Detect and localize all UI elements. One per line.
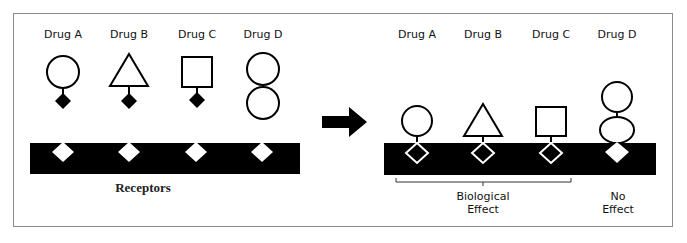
biological-effect-label-line1: Biological [456,190,509,203]
biological-effect-label-line2: Effect [467,203,499,216]
label-drug-c-after: Drug C [532,28,570,41]
label-drug-b-before: Drug B [110,28,148,41]
label-drug-d-after: Drug D [598,28,637,41]
drug-a-circle-icon [47,56,79,109]
label-drug-a-before: Drug A [44,28,82,41]
receptor-bar-before [30,142,300,174]
drug-c-square-icon [182,57,212,108]
drug-receptor-diagram: Drug A Drug B Drug C Drug D Receptors D [0,0,687,243]
no-effect-label-line2: Effect [602,203,634,216]
label-drug-d-before: Drug D [244,28,283,41]
drug-b-triangle-icon [110,54,148,109]
label-drug-a-after: Drug A [398,28,436,41]
drug-a-bound-icon [402,106,432,163]
no-effect-label-line1: No [611,190,626,203]
receptors-label: Receptors [115,180,171,195]
right-arrow-icon [322,107,367,137]
biological-effect-bracket [396,178,571,186]
drug-d-double-circle-icon [247,53,279,119]
label-drug-b-after: Drug B [464,28,502,41]
drug-c-bound-icon [536,107,566,163]
label-drug-c-before: Drug C [178,28,216,41]
